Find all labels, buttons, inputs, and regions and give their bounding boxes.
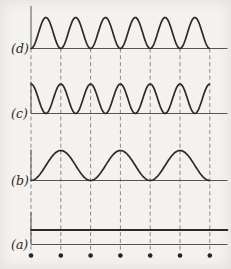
strobe-dot [178,253,183,258]
strobe-dot [208,253,213,258]
panel-label-b: (b) [11,173,29,188]
panel-label-a: (a) [11,237,28,252]
strobe-dot [148,253,153,258]
panel-label-c: (c) [11,106,28,121]
strobe-dot [88,253,93,258]
strobe-dot [118,253,123,258]
waveform-figure: (d) (c) (b) (a) [0,0,231,269]
strobe-dot [59,253,64,258]
panel-label-d: (d) [11,41,29,56]
wave-d [31,18,209,49]
strobe-dot [29,253,34,258]
waveform-figure-canvas: (d) (c) (b) (a) [0,0,231,269]
strobe-dots-layer [29,253,212,258]
